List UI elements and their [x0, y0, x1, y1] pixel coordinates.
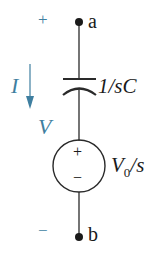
capacitor-impedance-label: 1/sC	[98, 76, 137, 97]
node-b-label: b	[88, 224, 98, 244]
node-b-dot	[75, 233, 83, 241]
source-value-label: V0/s	[111, 155, 144, 179]
current-label: I	[11, 75, 18, 97]
terminal-a-polarity: +	[38, 11, 48, 28]
node-a-label: a	[88, 11, 97, 31]
node-a-dot	[75, 18, 83, 26]
source-minus-sign: −	[73, 170, 82, 186]
voltage-label: V	[38, 116, 51, 138]
source-value-suffix: /s	[130, 153, 144, 177]
source-value-symbol: V	[111, 153, 124, 177]
arrow-down-icon	[26, 96, 34, 109]
source-plus-sign: +	[73, 144, 82, 160]
circuit-diagram	[0, 0, 163, 261]
terminal-b-polarity: −	[38, 222, 48, 239]
